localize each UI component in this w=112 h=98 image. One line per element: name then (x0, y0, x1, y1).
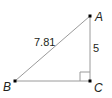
hypotenuse-length-label: 7.81 (34, 36, 55, 48)
vertex-label-B: B (3, 80, 11, 94)
side-AB (15, 16, 90, 81)
point-A (89, 15, 92, 18)
side-AC-length-label: 5 (93, 42, 99, 54)
point-C (89, 80, 92, 83)
vertex-label-C: C (94, 81, 103, 95)
triangle-diagram: A B C 7.81 5 (0, 0, 112, 98)
vertex-label-A: A (94, 10, 103, 24)
point-B (14, 80, 17, 83)
